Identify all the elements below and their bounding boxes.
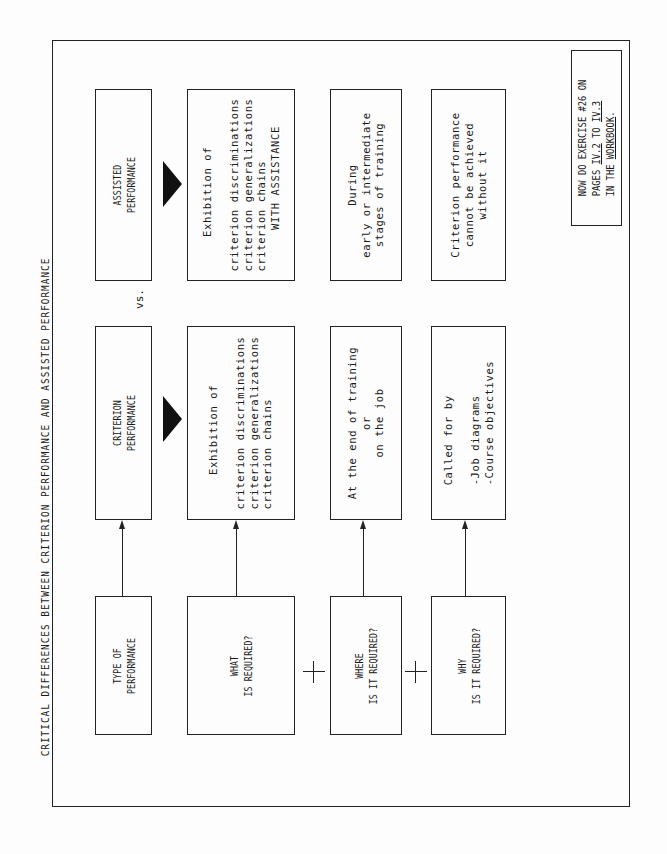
type-of-performance-box: TYPE OF PERFORMANCE xyxy=(95,596,152,735)
arrow-up-icon xyxy=(233,520,239,529)
where-is-it-required-label: WHERE IS IT REQUIRED? xyxy=(353,627,380,704)
exercise-note-text: NOW DO EXERCISE #26 ON PAGES IV.2 TO IV.… xyxy=(576,80,618,197)
page-ref-iv3-link[interactable]: IV.3 xyxy=(590,101,603,122)
exercise-note-box: NOW DO EXERCISE #26 ON PAGES IV.2 TO IV.… xyxy=(571,50,622,226)
what-is-required-label: WHAT IS REQUIRED? xyxy=(228,635,255,696)
where-criterion-text: At the end of training or on the job xyxy=(346,347,387,499)
where-assisted-box: During early or intermediate stages of t… xyxy=(330,89,402,281)
why-is-it-required-box: WHY IS IT REQUIRED? xyxy=(431,596,506,735)
workbook-link[interactable]: WORKBOOK xyxy=(604,117,617,159)
plus-icon xyxy=(303,661,325,683)
assisted-performance-label: ASSISTED PERFORMANCE xyxy=(110,157,137,213)
plus-icon xyxy=(405,661,427,683)
arrow-type-line xyxy=(122,528,123,596)
note-line-1: NOW DO EXERCISE #26 ON xyxy=(576,80,589,197)
arrow-up-icon xyxy=(119,520,125,529)
what-is-required-box: WHAT IS REQUIRED? xyxy=(187,596,295,735)
page-ref-iv2-link[interactable]: IV.2 xyxy=(590,143,603,164)
criterion-performance-label: CRITERION PERFORMANCE xyxy=(110,395,137,451)
why-assisted-box: Criterion performance cannot be achieved… xyxy=(431,89,506,281)
arrow-up-icon xyxy=(360,520,366,529)
what-assisted-text: Exhibition of criterion discriminations … xyxy=(201,98,282,271)
criterion-performance-box: CRITERION PERFORMANCE xyxy=(95,326,152,520)
type-of-performance-label: TYPE OF PERFORMANCE xyxy=(110,637,137,693)
why-assisted-text: Criterion performance cannot be achieved… xyxy=(448,112,489,257)
vs-label: vs. xyxy=(133,289,146,309)
pointer-triangle-icon xyxy=(163,396,182,442)
pointer-triangle-icon xyxy=(163,161,182,207)
note-line-3-suffix: . xyxy=(604,112,617,117)
note-line-2-prefix: PAGES xyxy=(590,164,603,196)
where-assisted-text: During early or intermediate stages of t… xyxy=(346,112,387,257)
arrow-why-line xyxy=(465,528,466,596)
what-criterion-text: Exhibition of criterion discriminations … xyxy=(207,336,275,509)
why-is-it-required-label: WHY IS IT REQUIRED? xyxy=(455,627,482,704)
note-line-2-mid: TO xyxy=(590,122,603,143)
where-criterion-box: At the end of training or on the job xyxy=(330,326,402,520)
where-is-it-required-box: WHERE IS IT REQUIRED? xyxy=(330,596,402,735)
arrow-what-line xyxy=(236,528,237,596)
arrow-where-line xyxy=(363,528,364,596)
what-assisted-box: Exhibition of criterion discriminations … xyxy=(187,89,295,281)
diagram-title: CRITICAL DIFFERENCES BETWEEN CRITERION P… xyxy=(39,258,52,757)
what-criterion-box: Exhibition of criterion discriminations … xyxy=(187,326,295,520)
why-criterion-text: Called for by -Job diagrams -Course obje… xyxy=(442,361,496,486)
assisted-performance-box: ASSISTED PERFORMANCE xyxy=(95,89,152,281)
arrow-up-icon xyxy=(462,520,468,529)
why-criterion-box: Called for by -Job diagrams -Course obje… xyxy=(431,326,506,520)
note-line-3-prefix: IN THE xyxy=(604,159,617,196)
